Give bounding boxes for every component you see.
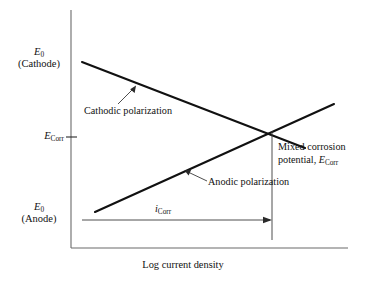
mixed-corrosion-potential-label: Mixed corrosion potential, ECorr <box>278 140 346 166</box>
ecorr-symbol: E <box>44 130 50 141</box>
y-axis-label-ecorr: ECorr <box>8 130 64 142</box>
ecorr-subscript: Corr <box>51 134 64 143</box>
mixed-potential-line-1: Mixed corrosion <box>278 140 346 153</box>
icorr-label: iCorr <box>155 203 171 215</box>
e0-cathode-qualifier: (Cathode) <box>18 58 60 69</box>
icorr-subscript: Corr <box>158 208 171 216</box>
icorr-arrow-head <box>263 217 272 224</box>
polarization-figure: E0 (Cathode) ECorr E0 (Anode) Cathodic p… <box>0 0 366 285</box>
y-axis-label-e0-cathode: E0 (Cathode) <box>10 46 68 71</box>
e0-anode-qualifier: (Anode) <box>22 213 57 224</box>
e0-anode-subscript: 0 <box>40 205 44 214</box>
mixed-potential-subscript: Corr <box>325 159 338 167</box>
e0-cathode-subscript: 0 <box>40 50 44 59</box>
anodic-leader-line <box>188 172 207 181</box>
anodic-polarization-label: Anodic polarization <box>208 176 289 188</box>
cathodic-leader-arrow-head <box>130 86 136 94</box>
y-axis-label-e0-anode: E0 (Anode) <box>10 201 68 226</box>
cathodic-polarization-label: Cathodic polarization <box>84 105 172 117</box>
x-axis-label: Log current density <box>0 259 366 271</box>
mixed-potential-prefix: potential, <box>278 154 319 165</box>
mixed-potential-line-2: potential, ECorr <box>278 153 346 166</box>
